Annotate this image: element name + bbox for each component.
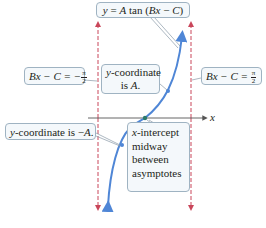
equation-tan: tan ( [126, 4, 149, 16]
x-axis-label: x [210, 111, 215, 123]
x-intercept-point [143, 116, 147, 120]
positive-point-label: y-coordinate is A. [101, 64, 160, 94]
equation-label: y = A tan (Bx − C) [96, 2, 190, 18]
label-text: is [121, 79, 131, 91]
equation-close: ) [179, 4, 183, 16]
label-text: -coordinate is − [15, 126, 84, 138]
left-asymptote-label: Bx − C = −π2 [24, 67, 85, 85]
label-text: -coordinate [111, 66, 161, 78]
right-asymptote-eq: Bx − C = [206, 70, 251, 82]
equation-minus: − [160, 4, 172, 16]
label-text: . [138, 79, 141, 91]
label-text: . [91, 126, 94, 138]
label-text: -intercept [137, 126, 179, 138]
left-asymptote-eq: Bx − C = − [29, 70, 81, 82]
tangent-graph [0, 0, 266, 228]
pi-over-2: π2 [81, 70, 87, 85]
a-var: A [84, 126, 91, 138]
point-negative-a [120, 143, 124, 147]
label-text: between [132, 153, 169, 165]
label-text: midway [132, 140, 167, 152]
equation-equals: = [108, 4, 120, 16]
pi-over-2: π2 [251, 70, 257, 85]
right-asymptote-label: Bx − C = π2 [201, 67, 262, 85]
frac-den: 2 [81, 78, 87, 85]
equation-bx: Bx [149, 4, 161, 16]
a-var: A [131, 79, 138, 91]
frac-den: 2 [251, 78, 257, 85]
negative-point-label: y-coordinate is −A. [5, 123, 96, 140]
intercept-label: x-intercept midway between asymptotes [127, 122, 190, 192]
label-text: asymptotes [132, 167, 182, 179]
